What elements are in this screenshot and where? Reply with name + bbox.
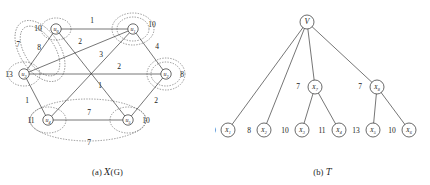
caption-panel-a: (a) X(G) (0, 167, 215, 177)
node-u3[interactable]: u3 (19, 69, 29, 79)
caption-panel-b: (b) T (215, 167, 430, 177)
node-X1[interactable]: X1 (221, 123, 235, 137)
caption-a-suffix: (G) (111, 167, 123, 177)
node-sub-u5: 5 (128, 120, 130, 125)
node-u0[interactable]: u0 (51, 24, 61, 34)
graph-edge-group (24, 29, 166, 120)
node-X7[interactable]: X7 (308, 80, 322, 94)
graph-edge-u1-u2 (133, 29, 166, 74)
node-sub-X1: 1 (229, 130, 231, 135)
graph-edge-weight-u1-u4: 1 (98, 81, 102, 90)
node-sub-X2: 2 (265, 130, 267, 135)
graph-xg-canvas: 1427182231 7 7 u0u1u2u5u4u3 10108101113 (0, 0, 215, 160)
tree-node-group: VX7X8X1X2X3X4X5X6 (221, 15, 416, 137)
graph-edge-weight-u1-u2: 4 (155, 42, 159, 51)
tree-edge-V-X2 (264, 22, 307, 130)
tree-edge-X7-X4 (315, 87, 339, 130)
graph-edge-label-group: 1427182231 (25, 16, 159, 117)
node-value-X6: 10 (388, 126, 396, 135)
node-value-X8: 7 (358, 82, 362, 91)
graph-edge-weight-u0-u1: 1 (90, 16, 94, 25)
cluster-label-left: 7 (16, 40, 20, 49)
node-value-u4: 11 (27, 116, 34, 125)
graph-edge-weight-u5-u4: 7 (87, 108, 91, 117)
caption-a-prefix: (a) (92, 167, 102, 177)
node-u2[interactable]: u2 (161, 69, 171, 79)
node-value-X4: 11 (318, 126, 325, 135)
node-X5[interactable]: X5 (366, 123, 380, 137)
node-value-X5: 13 (352, 126, 360, 135)
node-u1[interactable]: u1 (128, 24, 138, 34)
tree-edge-X8-X6 (377, 87, 409, 130)
node-value-X7: 7 (296, 82, 300, 91)
node-value-u0: 10 (34, 24, 42, 33)
graph-edge-weight-u4-u3: 1 (25, 96, 29, 105)
tree-t-canvas: VX7X8X1X2X3X4X5X6 7710810111310 (215, 0, 430, 160)
node-value-u5: 10 (142, 116, 150, 125)
node-u4[interactable]: u4 (43, 115, 53, 125)
node-X2[interactable]: X2 (257, 123, 271, 137)
node-sub-X3: 3 (303, 130, 305, 135)
node-sub-u4: 4 (48, 120, 50, 125)
tree-edge-V-X8 (307, 22, 377, 87)
node-sub-u1: 1 (133, 29, 135, 34)
graph-edge-weight-u3-u0: 8 (37, 43, 41, 52)
node-X8[interactable]: X8 (370, 80, 384, 94)
node-sub-u3: 3 (24, 74, 26, 79)
graph-node-group: u0u1u2u5u4u3 (19, 24, 171, 125)
graph-edge-weight-u2-u5: 2 (154, 96, 158, 105)
node-X3[interactable]: X3 (295, 123, 309, 137)
tree-edge-group (228, 22, 409, 130)
caption-b-prefix: (b) (313, 167, 324, 177)
tree-edge-V-X7 (307, 22, 315, 87)
node-value-X1: 10 (215, 126, 216, 135)
node-V[interactable]: V (300, 15, 314, 29)
node-value-X2: 8 (247, 126, 251, 135)
node-sub-X5: 5 (374, 130, 376, 135)
graph-edge-weight-u3-u2: 2 (117, 62, 121, 71)
node-value-X3: 10 (281, 126, 289, 135)
node-value-u2: 8 (180, 70, 184, 79)
cluster-label-bottom: 7 (87, 138, 91, 147)
node-u5[interactable]: u5 (123, 115, 133, 125)
node-X4[interactable]: X4 (332, 123, 346, 137)
graph-edge-weight-u0-u5: 3 (99, 50, 103, 59)
panel-tree-t: VX7X8X1X2X3X4X5X6 7710810111310 (b) T (215, 0, 430, 185)
graph-edge-u1-u4 (48, 29, 133, 120)
node-sub-u2: 2 (166, 74, 168, 79)
tree-edge-V-X1 (228, 22, 307, 130)
figure-root: 1427182231 7 7 u0u1u2u5u4u3 10108101113 … (0, 0, 430, 185)
node-value-u3: 13 (5, 70, 13, 79)
node-sub-X4: 4 (340, 130, 342, 135)
node-value-u1: 10 (148, 20, 156, 29)
graph-edge-u2-u5 (128, 74, 166, 120)
node-X6[interactable]: X6 (402, 123, 416, 137)
caption-b-symbol: T (326, 167, 332, 177)
graph-edge-weight-u3-u1: 2 (78, 37, 82, 46)
panel-graph-xg: 1427182231 7 7 u0u1u2u5u4u3 10108101113 … (0, 0, 215, 185)
graph-node-value-group: 10108101113 (5, 20, 184, 125)
graph-edge-u0-u5 (56, 29, 128, 120)
